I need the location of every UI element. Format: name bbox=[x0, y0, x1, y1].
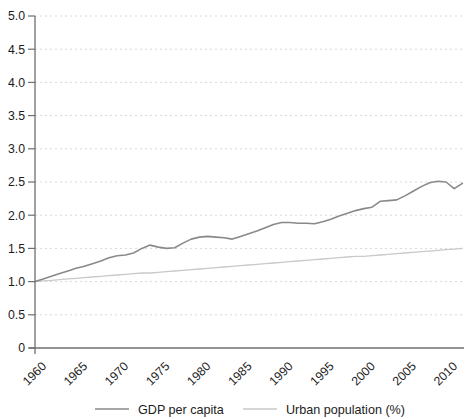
gdp-urban-line-chart: 5.04.54.03.53.02.52.01.51.00.50196019651… bbox=[0, 0, 469, 419]
y-tick-label: 0 bbox=[18, 341, 25, 355]
x-tick-label: 1980 bbox=[184, 359, 213, 388]
legend-label-urban-population: Urban population (%) bbox=[286, 403, 405, 417]
legend-label-gdp-per-capita: GDP per capita bbox=[138, 403, 224, 417]
x-tick-label: 1990 bbox=[266, 359, 295, 388]
x-tick-label: 2010 bbox=[431, 359, 460, 388]
y-tick-label: 2.0 bbox=[8, 209, 25, 223]
y-tick-label: 0.5 bbox=[8, 308, 25, 322]
y-tick-label: 2.5 bbox=[8, 175, 25, 189]
y-tick-label: 5.0 bbox=[8, 9, 25, 23]
x-tick-label: 1960 bbox=[20, 359, 49, 388]
x-tick-label: 2005 bbox=[390, 359, 419, 388]
x-tick-label: 2000 bbox=[349, 359, 378, 388]
x-tick-label: 1975 bbox=[143, 359, 172, 388]
x-tick-label: 1965 bbox=[61, 359, 90, 388]
series-line-gdp-per-capita bbox=[35, 181, 462, 281]
x-tick-label: 1995 bbox=[308, 359, 337, 388]
x-tick-label: 1970 bbox=[102, 359, 131, 388]
y-tick-label: 4.5 bbox=[8, 43, 25, 57]
chart-frame: 5.04.54.03.53.02.52.01.51.00.50196019651… bbox=[0, 0, 469, 419]
x-tick-label: 1985 bbox=[225, 359, 254, 388]
y-tick-label: 1.5 bbox=[8, 242, 25, 256]
y-tick-label: 4.0 bbox=[8, 76, 25, 90]
y-tick-label: 1.0 bbox=[8, 275, 25, 289]
y-tick-label: 3.5 bbox=[8, 109, 25, 123]
series-line-urban-population bbox=[35, 248, 462, 281]
y-tick-label: 3.0 bbox=[8, 142, 25, 156]
